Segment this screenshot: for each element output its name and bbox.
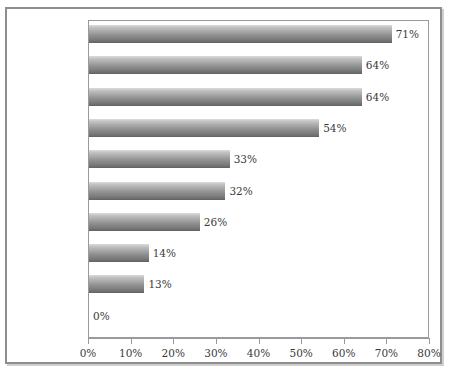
x-axis-tick xyxy=(216,338,217,344)
bar xyxy=(89,88,362,106)
bar-value-label: 71% xyxy=(396,28,419,40)
bar-value-label: 14% xyxy=(153,247,176,259)
x-axis-tick xyxy=(173,338,174,344)
bar xyxy=(89,119,319,137)
bar-value-label: 32% xyxy=(229,185,252,197)
bar xyxy=(89,56,362,74)
bar xyxy=(89,25,392,43)
bar-value-label: 64% xyxy=(366,91,389,103)
bar-value-label: 13% xyxy=(148,278,171,290)
x-axis-tick xyxy=(259,338,260,344)
x-axis-tick xyxy=(429,338,430,344)
x-axis-tick xyxy=(386,338,387,344)
bar xyxy=(89,182,225,200)
bar-chart: TaskOriented71%GoalOriented64%Team Playe… xyxy=(0,0,449,376)
x-axis-tick-label: 80% xyxy=(404,347,449,360)
x-axis-tick xyxy=(131,338,132,344)
bar xyxy=(89,213,200,231)
bar-value-label: 0% xyxy=(93,310,110,322)
x-axis-tick xyxy=(301,338,302,344)
bar-value-label: 54% xyxy=(323,122,346,134)
bar xyxy=(89,275,144,293)
bar-value-label: 64% xyxy=(366,59,389,71)
x-axis-tick xyxy=(344,338,345,344)
x-axis-tick xyxy=(88,338,89,344)
bar xyxy=(89,244,149,262)
bar xyxy=(89,150,230,168)
bar-value-label: 26% xyxy=(204,216,227,228)
bar-value-label: 33% xyxy=(234,153,257,165)
figure-container: TaskOriented71%GoalOriented64%Team Playe… xyxy=(0,0,449,376)
